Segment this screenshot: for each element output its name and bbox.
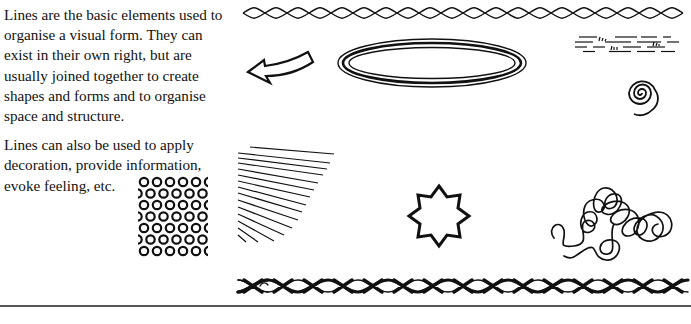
concentric-ellipses	[336, 37, 529, 89]
circle-pattern	[138, 176, 208, 258]
scribble-loops	[548, 176, 678, 268]
horizontal-rule	[0, 305, 691, 307]
paragraph-1: Lines are the basic elements used to org…	[4, 5, 232, 126]
curved-arrow-icon	[246, 50, 316, 86]
star-icon	[405, 183, 473, 249]
spiral-icon	[612, 65, 668, 121]
fanned-lines	[236, 145, 336, 245]
dashed-water-lines	[575, 33, 685, 55]
twisted-rope-line	[243, 6, 683, 20]
body-text: Lines are the basic elements used to org…	[4, 5, 232, 205]
parallel-lines-block	[356, 104, 589, 159]
braided-border	[238, 276, 688, 296]
